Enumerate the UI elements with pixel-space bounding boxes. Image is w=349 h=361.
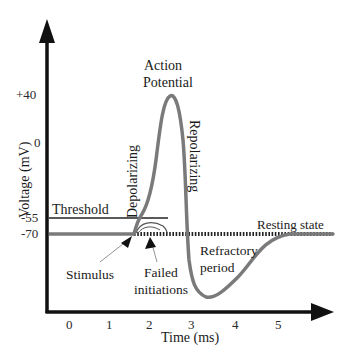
x-tick-2: 2 <box>146 318 153 332</box>
failed-label: Failed <box>144 265 178 280</box>
period-label: period <box>200 260 235 275</box>
resting-state-label: Resting state <box>257 217 324 232</box>
initiations-label: initiations <box>134 282 188 297</box>
x-tick-0: 0 <box>66 318 73 332</box>
y-axis-label: Voltage (mV) <box>17 142 33 218</box>
x-tick-4: 4 <box>232 318 239 332</box>
stimulus-arrow-icon <box>121 236 132 248</box>
failed-arrow-icon <box>145 237 156 249</box>
action-potential-diagram <box>0 0 349 361</box>
title-potential: Potential <box>143 75 193 90</box>
y-tick-minus70: -70 <box>21 227 38 241</box>
failed-initiation-curve <box>136 223 167 233</box>
threshold-label: Threshold <box>52 202 109 217</box>
y-tick-plus40: +40 <box>16 88 36 102</box>
x-axis-arrow-icon <box>311 303 334 321</box>
stimulus-label: Stimulus <box>66 267 114 282</box>
repolarizing-label: Repolarizing <box>186 120 202 192</box>
y-axis <box>39 19 55 313</box>
refractory-label: Refractory <box>200 243 258 258</box>
depolarizing-label: Depolarizing <box>125 145 141 218</box>
x-axis-label: Time (ms) <box>161 330 219 345</box>
x-tick-1: 1 <box>106 318 113 332</box>
y-axis-arrow-icon <box>39 19 55 43</box>
title-action: Action <box>144 58 182 73</box>
y-tick-0: 0 <box>34 136 41 150</box>
x-tick-5: 5 <box>275 318 282 332</box>
